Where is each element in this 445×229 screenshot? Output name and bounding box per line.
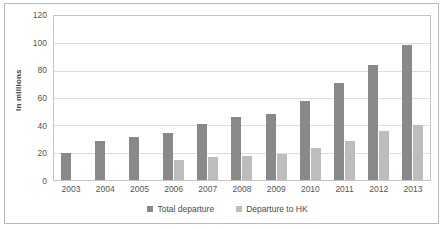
bar[interactable] <box>61 153 71 180</box>
bar-group <box>88 16 122 180</box>
bar[interactable] <box>231 117 241 180</box>
y-axis-tick-label: 40 <box>38 121 47 131</box>
bar[interactable] <box>266 114 276 180</box>
x-axis-tick-label: 2012 <box>369 184 388 194</box>
legend-swatch-icon <box>147 206 153 212</box>
x-axis-tick-label: 2004 <box>96 184 115 194</box>
bar[interactable] <box>277 154 287 180</box>
bar[interactable] <box>95 141 105 180</box>
bar[interactable] <box>129 137 139 180</box>
x-axis-tick-label: 2013 <box>403 184 422 194</box>
chart-legend: Total departureDeparture to HK <box>5 204 445 214</box>
x-axis-tick-label: 2003 <box>62 184 81 194</box>
bar-group <box>122 16 156 180</box>
bar[interactable] <box>174 160 184 181</box>
bar[interactable] <box>311 148 321 180</box>
bar[interactable] <box>368 65 378 180</box>
bar[interactable] <box>345 141 355 180</box>
legend-label: Total departure <box>157 204 214 214</box>
y-axis-tick-label: 60 <box>38 93 47 103</box>
y-axis-tick-label: 100 <box>33 38 47 48</box>
x-axis-tick-label: 2007 <box>198 184 217 194</box>
y-axis-tick-label: 80 <box>38 65 47 75</box>
y-axis-tick-label: 120 <box>33 10 47 20</box>
legend-item[interactable]: Total departure <box>147 204 214 214</box>
bar-group <box>157 16 191 180</box>
bar-group <box>327 16 361 180</box>
y-axis-tick-label: 0 <box>42 176 47 186</box>
y-axis-tick-label: 20 <box>38 148 47 158</box>
bar[interactable] <box>163 133 173 180</box>
legend-swatch-icon <box>236 206 242 212</box>
bar-group <box>293 16 327 180</box>
bar[interactable] <box>197 124 207 180</box>
x-axis-tick-label: 2006 <box>164 184 183 194</box>
bars-layer <box>54 16 430 180</box>
bar[interactable] <box>402 45 412 180</box>
bar[interactable] <box>413 125 423 180</box>
bar-group <box>54 16 88 180</box>
x-axis-tick-label: 2010 <box>301 184 320 194</box>
bar-group <box>396 16 430 180</box>
bar-group <box>225 16 259 180</box>
x-axis-tick-label: 2009 <box>267 184 286 194</box>
bar[interactable] <box>242 156 252 180</box>
bar-group <box>259 16 293 180</box>
bar-group <box>191 16 225 180</box>
chart-frame: In millions 020406080100120 200320042005… <box>4 3 439 224</box>
x-axis-tick-label: 2011 <box>335 184 353 194</box>
bar[interactable] <box>208 157 218 180</box>
x-axis-tick-label: 2005 <box>130 184 149 194</box>
legend-label: Departure to HK <box>246 204 307 214</box>
bar-group <box>362 16 396 180</box>
x-axis-tick-labels: 2003200420052006200720082009201020112012… <box>54 184 430 198</box>
bar[interactable] <box>379 131 389 180</box>
bar[interactable] <box>334 83 344 180</box>
y-axis-tick-labels: 020406080100120 <box>23 15 51 181</box>
legend-item[interactable]: Departure to HK <box>236 204 307 214</box>
x-axis-tick-label: 2008 <box>233 184 252 194</box>
bar[interactable] <box>300 101 310 180</box>
